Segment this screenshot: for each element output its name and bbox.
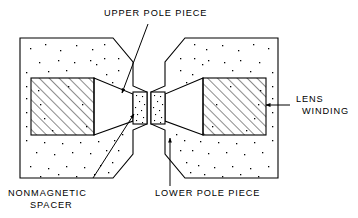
- lower-lens-winding: [203, 78, 266, 135]
- label-lens-winding-line1: LENS: [296, 94, 324, 104]
- label-lower-pole-piece: LOWER POLE PIECE: [155, 188, 260, 198]
- diagram-page: UPPER POLE PIECE NONMAGNETIC SPACER LOWE…: [0, 0, 358, 218]
- label-nonmagnetic-spacer-line2: SPACER: [30, 200, 73, 210]
- label-nonmagnetic-spacer-line1: NONMAGNETIC: [8, 188, 87, 198]
- upper-lens-winding: [31, 78, 94, 135]
- label-lens-winding-line2: WINDING: [302, 106, 349, 116]
- magnetic-lens-cross-section: UPPER POLE PIECE NONMAGNETIC SPACER LOWE…: [0, 0, 358, 218]
- label-upper-pole-piece: UPPER POLE PIECE: [104, 8, 207, 18]
